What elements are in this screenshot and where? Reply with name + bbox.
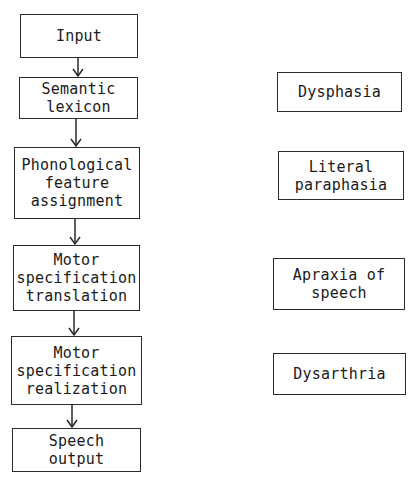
semantic-lexicon-box: Semantic lexicon bbox=[19, 77, 138, 119]
phonological-label-line1: Phonological bbox=[22, 156, 133, 174]
motor-translation-label-line1: Motor bbox=[53, 251, 99, 269]
speech-output-label-line1: Speech bbox=[49, 432, 104, 450]
phonological-feature-assignment-box: Phonological feature assignment bbox=[14, 147, 140, 219]
literal-paraphasia-label-line2: paraphasia bbox=[295, 176, 387, 194]
apraxia-label-line1: Apraxia of bbox=[293, 266, 385, 284]
semantic-lexicon-label-line2: lexicon bbox=[46, 98, 111, 116]
literal-paraphasia-label-line1: Literal bbox=[309, 158, 374, 176]
motor-realization-label-line3: realization bbox=[26, 380, 128, 398]
dysphasia-label: Dysphasia bbox=[298, 83, 381, 101]
motor-translation-label-line3: translation bbox=[26, 287, 128, 305]
dysarthria-box: Dysarthria bbox=[273, 353, 406, 395]
semantic-lexicon-label-line1: Semantic bbox=[42, 80, 116, 98]
phonological-label-line3: assignment bbox=[31, 192, 123, 210]
apraxia-label-line2: speech bbox=[311, 284, 366, 302]
speech-output-label-line2: output bbox=[49, 450, 104, 468]
motor-translation-label-line2: specification bbox=[17, 269, 137, 287]
motor-realization-label-line1: Motor bbox=[53, 344, 99, 362]
dysarthria-label: Dysarthria bbox=[293, 365, 385, 383]
motor-realization-label-line2: specification bbox=[17, 362, 137, 380]
phonological-label-line2: feature bbox=[45, 174, 110, 192]
literal-paraphasia-box: Literal paraphasia bbox=[278, 151, 404, 200]
apraxia-of-speech-box: Apraxia of speech bbox=[273, 258, 405, 310]
motor-specification-translation-box: Motor specification translation bbox=[13, 245, 140, 311]
input-box: Input bbox=[20, 14, 138, 58]
motor-specification-realization-box: Motor specification realization bbox=[11, 336, 142, 405]
speech-output-box: Speech output bbox=[12, 428, 141, 472]
dysphasia-box: Dysphasia bbox=[277, 72, 402, 112]
input-label: Input bbox=[56, 27, 102, 45]
